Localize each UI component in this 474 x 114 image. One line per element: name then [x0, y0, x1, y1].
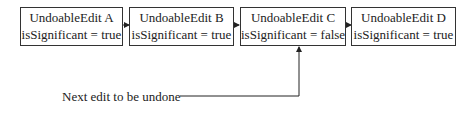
edit-name: UndoableEdit B — [130, 9, 233, 26]
pointer-label: Next edit to be undone — [62, 89, 180, 105]
edit-name: UndoableEdit D — [352, 9, 455, 26]
edit-box-c: UndoableEdit C isSignificant = false — [240, 7, 346, 46]
edit-box-d: UndoableEdit D isSignificant = true — [351, 7, 456, 46]
edit-flag: isSignificant = true — [130, 26, 233, 43]
edit-box-a: UndoableEdit A isSignificant = true — [20, 7, 123, 46]
edit-box-b: UndoableEdit B isSignificant = true — [129, 7, 234, 46]
edit-flag: isSignificant = false — [241, 26, 345, 43]
pointer-arrow — [180, 47, 299, 96]
edit-name: UndoableEdit C — [241, 9, 345, 26]
edit-name: UndoableEdit A — [21, 9, 122, 26]
edit-flag: isSignificant = true — [352, 26, 455, 43]
edit-flag: isSignificant = true — [21, 26, 122, 43]
